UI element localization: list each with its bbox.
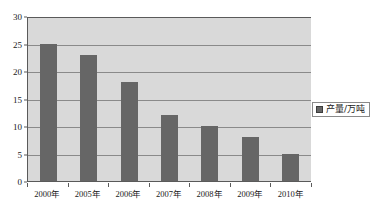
bar: [40, 44, 57, 182]
bar: [161, 115, 178, 181]
bar-slot: [109, 17, 149, 181]
x-tick-label: 2007年: [149, 183, 190, 209]
y-tick-label: 25: [13, 40, 22, 49]
x-tick-mark: [149, 183, 150, 187]
bar: [201, 126, 218, 181]
bars-group: [28, 17, 311, 181]
plot-area: [27, 17, 311, 182]
x-axis: 2000年2005年2006年2007年2008年2009年2010年: [27, 183, 311, 209]
bar: [282, 154, 299, 182]
y-axis: 051015202530: [0, 17, 27, 182]
x-tick-label: 2008年: [189, 183, 230, 209]
x-tick-label: 2005年: [68, 183, 109, 209]
bar-slot: [68, 17, 108, 181]
x-tick-label: 2010年: [270, 183, 311, 209]
x-tick-mark: [189, 183, 190, 187]
x-tick-label: 2006年: [108, 183, 149, 209]
x-tick-mark: [68, 183, 69, 187]
x-tick-mark: [108, 183, 109, 187]
x-tick-label-text: 2010年: [278, 189, 304, 199]
legend: 产量/万吨: [312, 102, 370, 117]
x-tick-mark: [270, 183, 271, 187]
y-tick-label: 10: [13, 123, 22, 132]
bar-slot: [230, 17, 270, 181]
bar-chart: 051015202530 2000年2005年2006年2007年2008年20…: [0, 0, 378, 220]
y-tick-label: 5: [18, 150, 23, 159]
bar: [80, 55, 97, 182]
x-tick-label-text: 2000年: [34, 189, 60, 199]
x-tick-label: 2009年: [230, 183, 271, 209]
y-tick-label: 0: [18, 178, 23, 187]
x-tick-label-text: 2007年: [156, 189, 182, 199]
y-tick-label: 20: [13, 68, 22, 77]
x-tick-mark: [311, 183, 312, 187]
bar: [242, 137, 259, 181]
x-tick-label-text: 2009年: [237, 189, 263, 199]
x-tick-label-text: 2005年: [75, 189, 101, 199]
x-tick-label-text: 2008年: [197, 189, 223, 199]
bar-slot: [28, 17, 68, 181]
bar-slot: [149, 17, 189, 181]
y-tick-label: 30: [13, 13, 22, 22]
x-tick-label: 2000年: [27, 183, 68, 209]
bar: [121, 82, 138, 181]
bar-slot: [271, 17, 311, 181]
y-tick-label: 15: [13, 95, 22, 104]
x-tick-mark: [27, 183, 28, 187]
x-tick-mark: [230, 183, 231, 187]
bar-slot: [190, 17, 230, 181]
legend-label: 产量/万吨: [326, 105, 365, 114]
legend-swatch-icon: [316, 106, 323, 113]
x-tick-label-text: 2006年: [115, 189, 141, 199]
